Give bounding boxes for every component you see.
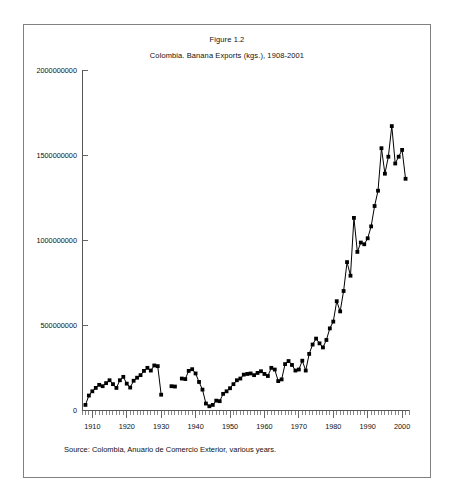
data-point-marker: [349, 274, 353, 278]
data-point-marker: [90, 389, 94, 393]
data-point-marker: [173, 385, 177, 389]
data-point-marker: [228, 386, 232, 390]
data-point-marker: [194, 372, 198, 376]
data-point-marker: [273, 368, 277, 372]
data-point-marker: [152, 364, 156, 368]
data-point-marker: [397, 155, 401, 159]
data-point-marker: [345, 260, 349, 264]
data-point-marker: [197, 380, 201, 384]
data-point-marker: [104, 381, 108, 385]
data-point-marker: [156, 364, 160, 368]
data-point-marker: [180, 377, 184, 381]
data-point-marker: [383, 172, 387, 176]
data-point-marker: [149, 369, 153, 373]
data-point-marker: [101, 384, 105, 388]
data-point-marker: [238, 377, 242, 381]
data-point-marker: [307, 352, 311, 356]
data-point-marker: [139, 373, 143, 377]
data-point-marker: [338, 310, 342, 314]
data-point-marker: [249, 372, 253, 376]
data-point-marker: [321, 346, 325, 350]
data-point-marker: [94, 386, 98, 390]
data-point-marker: [311, 343, 315, 347]
data-point-marker: [331, 320, 335, 324]
data-point-marker: [245, 372, 249, 376]
data-point-marker: [362, 242, 366, 246]
x-tick-label: 1910: [84, 422, 100, 431]
x-tick-label: 1990: [360, 422, 376, 431]
data-point-marker: [235, 378, 239, 382]
x-tick-label: 1980: [325, 422, 341, 431]
data-point-marker: [304, 369, 308, 373]
x-tick-label: 1950: [222, 422, 238, 431]
data-point-marker: [404, 177, 408, 181]
data-point-marker: [125, 382, 129, 386]
data-point-marker: [269, 366, 273, 370]
data-point-marker: [280, 378, 284, 382]
x-tick-label: 1940: [187, 422, 203, 431]
y-tick-label: 1500000000: [36, 151, 77, 160]
data-point-marker: [190, 367, 194, 371]
data-point-marker: [242, 373, 246, 377]
y-tick-label: 500000000: [40, 321, 77, 330]
data-point-marker: [290, 363, 294, 367]
data-point-marker: [221, 392, 225, 396]
x-tick-label: 1960: [256, 422, 272, 431]
data-point-marker: [266, 374, 270, 378]
data-point-marker: [256, 371, 260, 375]
data-point-marker: [214, 399, 218, 403]
banana-exports-line-chart: 0500000000100000000015000000002000000000…: [24, 25, 432, 479]
data-point-marker: [146, 366, 150, 370]
data-point-marker: [115, 386, 119, 390]
data-point-marker: [84, 403, 88, 407]
data-point-marker: [170, 384, 174, 388]
data-point-marker: [369, 225, 373, 229]
data-point-marker: [300, 359, 304, 363]
data-point-marker: [373, 204, 377, 208]
data-point-marker: [283, 362, 287, 366]
data-point-marker: [142, 369, 146, 373]
data-point-marker: [183, 377, 187, 381]
data-point-marker: [314, 337, 318, 341]
data-point-marker: [393, 162, 397, 166]
data-point-marker: [335, 299, 339, 303]
data-point-marker: [187, 369, 191, 373]
data-point-marker: [386, 155, 390, 159]
data-point-marker: [225, 389, 229, 393]
data-point-marker: [132, 379, 136, 383]
data-point-marker: [400, 148, 404, 152]
x-tick-label: 1970: [291, 422, 307, 431]
data-point-marker: [232, 382, 236, 386]
exports-series: [84, 124, 408, 408]
data-point-marker: [259, 369, 263, 373]
data-point-marker: [207, 404, 211, 408]
data-point-marker: [376, 189, 380, 193]
y-tick-label: 0: [73, 406, 77, 415]
data-point-marker: [342, 289, 346, 293]
data-point-marker: [328, 327, 332, 331]
data-point-marker: [359, 241, 363, 245]
figure-frame: Figure 1.2 Colombia. Banana Exports (kgs…: [23, 24, 431, 478]
data-point-marker: [318, 341, 322, 345]
x-tick-label: 1930: [153, 422, 169, 431]
data-point-marker: [118, 378, 122, 382]
data-point-marker: [287, 359, 291, 363]
data-point-marker: [276, 379, 280, 383]
data-point-marker: [211, 403, 215, 407]
data-point-marker: [159, 393, 163, 397]
data-point-marker: [263, 372, 267, 376]
data-point-marker: [87, 394, 91, 398]
data-point-marker: [204, 402, 208, 406]
source-note: Source: Colombia, Anuario de Comercio Ex…: [64, 445, 276, 455]
data-point-marker: [97, 383, 101, 387]
data-point-marker: [135, 376, 139, 380]
data-point-marker: [108, 378, 112, 382]
data-point-marker: [218, 399, 222, 403]
data-point-marker: [297, 368, 301, 372]
y-tick-label: 1000000000: [36, 236, 77, 245]
x-tick-label: 1920: [119, 422, 135, 431]
data-point-marker: [366, 236, 370, 240]
y-axis: 0500000000100000000015000000002000000000: [36, 66, 88, 415]
data-point-marker: [111, 382, 115, 386]
data-point-marker: [121, 375, 125, 379]
